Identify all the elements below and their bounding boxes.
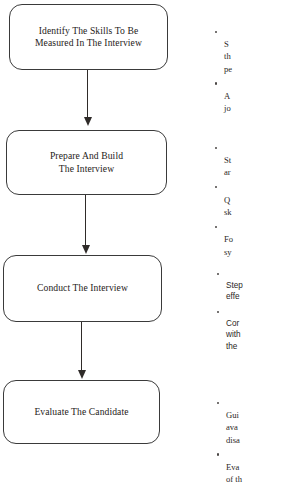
arrowhead-down-icon	[82, 245, 90, 254]
arrowhead-down-icon	[84, 117, 92, 126]
node-label: Evaluate The Candidate	[34, 406, 128, 418]
flowchart-node-prepare-build[interactable]: Prepare And Build The Interview	[6, 130, 167, 195]
node-label: Identify The Skills To Be Measured In Th…	[35, 25, 142, 50]
bullet-icon	[215, 147, 217, 149]
list-item: A jo	[213, 78, 305, 115]
bullet-icon	[217, 273, 219, 275]
annotation-list-prepare-build: St ar Q sk Fo sy	[213, 142, 305, 261]
annotation-list-conduct-interview: Step effe Cor with the	[215, 268, 307, 355]
list-item-text: Eva of th	[226, 462, 242, 484]
list-item-text: S th pe	[224, 39, 232, 73]
connector-line	[85, 195, 86, 246]
node-label: Prepare And Build The Interview	[50, 150, 123, 175]
list-item-text: A jo	[224, 91, 231, 113]
list-item-text: Q sk	[224, 195, 232, 217]
list-item: Q sk	[213, 182, 305, 219]
flowchart-node-identify-skills[interactable]: Identify The Skills To Be Measured In Th…	[9, 4, 168, 70]
list-item: Eva of th	[215, 449, 307, 486]
bullet-icon	[217, 402, 219, 404]
bullet-icon	[217, 311, 219, 313]
list-item-text: Gui ava disa	[226, 410, 240, 444]
connector-line	[81, 322, 82, 371]
list-item: St ar	[213, 142, 305, 179]
list-item: Gui ava disa	[215, 397, 307, 446]
flowchart-node-conduct-interview[interactable]: Conduct The Interview	[3, 255, 162, 322]
list-item: Fo sy	[213, 221, 305, 258]
bullet-icon	[217, 453, 219, 455]
bullet-icon	[215, 226, 217, 228]
annotation-list-evaluate-candidate: Gui ava disa Eva of th	[215, 397, 307, 486]
list-item-text: St ar	[224, 155, 231, 177]
list-item-text: Fo sy	[224, 234, 233, 256]
bullet-icon	[215, 82, 217, 84]
bullet-icon	[215, 31, 217, 33]
list-item-text: Cor with the	[226, 319, 241, 351]
arrowhead-down-icon	[78, 370, 86, 379]
bullet-icon	[215, 186, 217, 188]
flowchart-node-evaluate-candidate[interactable]: Evaluate The Candidate	[3, 380, 160, 444]
list-item: Step effe	[215, 268, 307, 303]
annotation-list-identify-skills: S th pe A jo	[213, 26, 305, 117]
node-label: Conduct The Interview	[37, 282, 128, 294]
list-item: Cor with the	[215, 306, 307, 353]
connector-line	[87, 70, 88, 118]
list-item-text: Step effe	[226, 281, 243, 302]
list-item: S th pe	[213, 26, 305, 75]
